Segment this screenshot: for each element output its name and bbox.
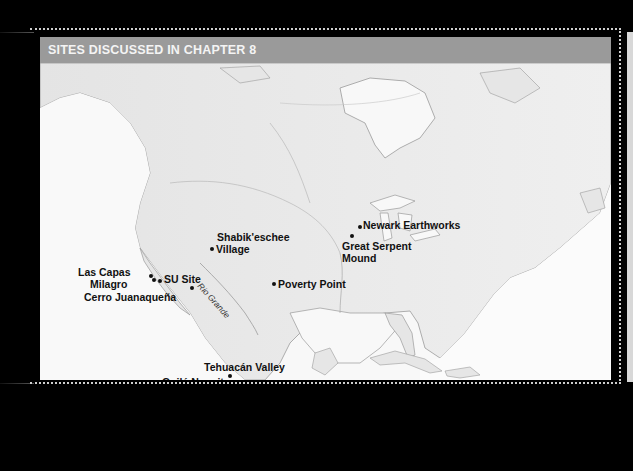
adjacent-page-edge [627, 32, 633, 382]
site-label-tehuacan-valley: Tehuacán Valley [204, 361, 285, 373]
site-label-milagro: Milagro [90, 278, 127, 290]
edge-line-bottom [0, 383, 34, 384]
site-label-poverty-point: Poverty Point [278, 278, 346, 290]
map-figure: SITES DISCUSSED IN CHAPTER 8 [40, 37, 611, 380]
site-dot-milagro [152, 278, 156, 282]
site-dot-su-site [158, 279, 162, 283]
site-dot-cerro-juanaquena [190, 286, 194, 290]
site-label-mound: Mound [342, 252, 376, 264]
site-label-las-capas: Las Capas [78, 266, 131, 278]
site-dot-shabikeschee [210, 247, 214, 251]
site-dot-great-serpent [350, 234, 354, 238]
site-label-su-site: SU Site [164, 273, 201, 285]
site-label-great-serpent: Great Serpent [342, 240, 411, 252]
map-title: SITES DISCUSSED IN CHAPTER 8 [40, 37, 611, 63]
north-america-map: Newark Earthworks Great Serpent Mound Sh… [40, 63, 611, 380]
site-dot-poverty-point [272, 282, 276, 286]
site-label-village: Village [216, 243, 250, 255]
site-label-shabikeschee: Shabik'eschee [217, 231, 290, 243]
site-label-newark: Newark Earthworks [363, 219, 460, 231]
site-label-cerro-juanaquena: Cerro Juanaqueña [84, 291, 176, 303]
edge-line-top [0, 32, 34, 33]
site-dot-newark [358, 225, 362, 229]
site-label-guila-naquitz: Guilá Naquitz [162, 377, 229, 380]
map-basemap [40, 63, 611, 380]
